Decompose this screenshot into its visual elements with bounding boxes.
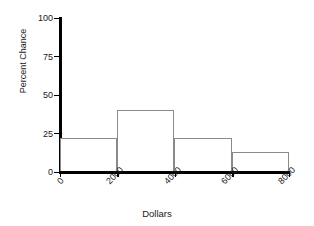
y-tick-0: 0 (22, 167, 62, 177)
y-tick-mark-75 (54, 56, 60, 57)
y-tick-50: 50 (22, 90, 62, 100)
y-tick-75: 75 (22, 52, 62, 62)
y-tick-mark-25 (54, 133, 60, 134)
y-tick-label-100: 100 (23, 13, 53, 23)
x-tick-label-0: 0 (55, 175, 66, 186)
histogram-bar (117, 110, 174, 172)
y-tick-label-25: 25 (23, 129, 53, 139)
y-tick-100: 100 (22, 13, 62, 23)
histogram-bar (174, 138, 231, 172)
y-tick-label-50: 50 (23, 90, 53, 100)
x-axis-title: Dollars (0, 208, 314, 219)
histogram-bar (232, 152, 289, 172)
y-tick-label-0: 0 (23, 167, 53, 177)
histogram-bar (60, 138, 117, 172)
y-tick-mark-100 (54, 18, 60, 19)
y-tick-25: 25 (22, 129, 62, 139)
histogram-chart: Percent Chance 100 75 50 25 0 0 2000 400… (0, 0, 314, 226)
y-tick-mark-50 (54, 95, 60, 96)
y-tick-label-75: 75 (23, 52, 53, 62)
